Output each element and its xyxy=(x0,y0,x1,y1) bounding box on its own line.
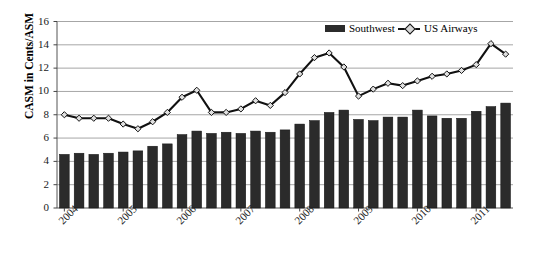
bar-group xyxy=(339,110,349,208)
bar-group xyxy=(368,121,378,208)
bar-group xyxy=(486,107,496,208)
bar-southwest xyxy=(471,111,481,208)
bar-southwest xyxy=(398,117,408,208)
legend-label-us-airways: US Airways xyxy=(424,22,477,34)
bar-group xyxy=(221,132,231,208)
data-point-marker-us-airways xyxy=(91,115,97,121)
bar-southwest xyxy=(118,152,128,208)
bar-group xyxy=(251,131,261,208)
bar-group xyxy=(471,111,481,208)
bar-southwest xyxy=(207,133,217,208)
bar-group xyxy=(295,124,305,208)
bar-southwest xyxy=(148,146,158,208)
legend-label-southwest: Southwest xyxy=(349,22,395,34)
bar-southwest xyxy=(339,110,349,208)
bar-southwest xyxy=(192,131,202,208)
bar-southwest xyxy=(368,121,378,208)
bar-southwest xyxy=(295,124,305,208)
bar-group xyxy=(280,130,290,208)
bar-group xyxy=(162,144,172,208)
bar-southwest xyxy=(427,116,437,208)
bar-southwest xyxy=(413,110,423,208)
data-point-marker-us-airways xyxy=(429,73,435,79)
bar-group xyxy=(207,133,217,208)
data-point-marker-us-airways xyxy=(385,80,391,86)
chart-container: CASM in Cents/ASM 0246810121416 20042005… xyxy=(0,0,546,257)
legend-line-diamond-icon xyxy=(398,24,420,33)
bar-group xyxy=(354,119,364,208)
bar-southwest xyxy=(324,112,334,208)
bar-southwest xyxy=(457,118,467,208)
bar-group xyxy=(89,154,99,208)
bar-southwest xyxy=(501,103,511,208)
bar-group xyxy=(60,154,70,208)
bar-southwest xyxy=(310,121,320,208)
data-point-marker-us-airways xyxy=(400,83,406,89)
bar-southwest xyxy=(442,118,452,208)
bar-group xyxy=(265,132,275,208)
bar-group xyxy=(457,118,467,208)
bar-group xyxy=(177,135,187,208)
legend-diamond-marker xyxy=(404,23,415,34)
legend-item-southwest: Southwest xyxy=(325,22,395,34)
bar-southwest xyxy=(104,153,114,208)
bar-group xyxy=(398,117,408,208)
bar-group xyxy=(501,103,511,208)
bar-group xyxy=(192,131,202,208)
bar-group xyxy=(310,121,320,208)
bar-southwest xyxy=(162,144,172,208)
bar-group xyxy=(427,116,437,208)
bar-group xyxy=(236,133,246,208)
bar-southwest xyxy=(236,133,246,208)
bar-southwest xyxy=(89,154,99,208)
data-point-marker-us-airways xyxy=(444,71,450,77)
bar-southwest xyxy=(280,130,290,208)
bar-group xyxy=(104,153,114,208)
bar-southwest xyxy=(74,153,84,208)
legend-item-us-airways: US Airways xyxy=(398,22,477,34)
data-point-marker-us-airways xyxy=(105,115,111,121)
bar-southwest xyxy=(60,154,70,208)
bar-southwest xyxy=(221,132,231,208)
bar-southwest xyxy=(177,135,187,208)
data-point-marker-us-airways xyxy=(76,115,82,121)
bar-group xyxy=(324,112,334,208)
bar-group xyxy=(118,152,128,208)
bar-group xyxy=(148,146,158,208)
bar-southwest xyxy=(383,117,393,208)
bar-southwest xyxy=(265,132,275,208)
bar-group xyxy=(442,118,452,208)
legend-bar-swatch-icon xyxy=(325,25,345,32)
bar-southwest xyxy=(354,119,364,208)
data-point-marker-us-airways xyxy=(61,112,67,118)
bar-group xyxy=(133,151,143,208)
bar-southwest xyxy=(486,107,496,208)
data-point-marker-us-airways xyxy=(414,78,420,84)
bar-southwest xyxy=(133,151,143,208)
bar-group xyxy=(413,110,423,208)
bar-southwest xyxy=(251,131,261,208)
bar-group xyxy=(383,117,393,208)
bar-group xyxy=(74,153,84,208)
line-us-airways xyxy=(64,44,505,129)
plot-area xyxy=(0,0,546,257)
data-point-marker-us-airways xyxy=(120,121,126,127)
